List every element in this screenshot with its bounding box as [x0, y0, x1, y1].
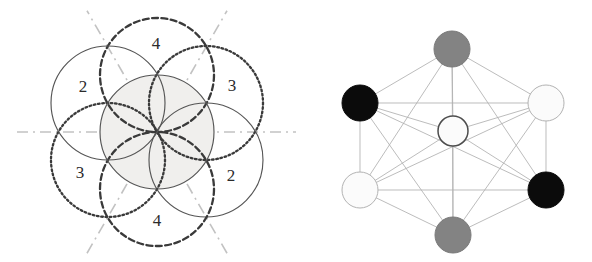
node-upper-right[interactable] [528, 85, 564, 121]
node-lower-right[interactable] [528, 172, 564, 208]
graph-nodes-group [342, 31, 564, 253]
circle-rosette-svg: 423324 [0, 0, 296, 262]
node-bottom[interactable] [435, 217, 471, 253]
node-center[interactable] [438, 116, 468, 146]
node-top[interactable] [434, 31, 470, 67]
node-lower-left[interactable] [342, 172, 378, 208]
circle-rosette-panel: 423324 [0, 0, 296, 262]
region-label-upper-left: 2 [79, 77, 88, 96]
region-label-top: 4 [152, 34, 161, 53]
node-graph-panel [296, 0, 592, 262]
node-upper-left[interactable] [342, 85, 378, 121]
node-graph-svg [296, 0, 592, 262]
graph-edge [452, 49, 546, 190]
region-label-lower-left: 3 [76, 163, 85, 182]
region-label-upper-right: 3 [228, 76, 237, 95]
figure-root: 423324 [0, 0, 592, 262]
region-label-lower-right: 2 [227, 166, 236, 185]
region-label-bottom: 4 [153, 211, 162, 230]
